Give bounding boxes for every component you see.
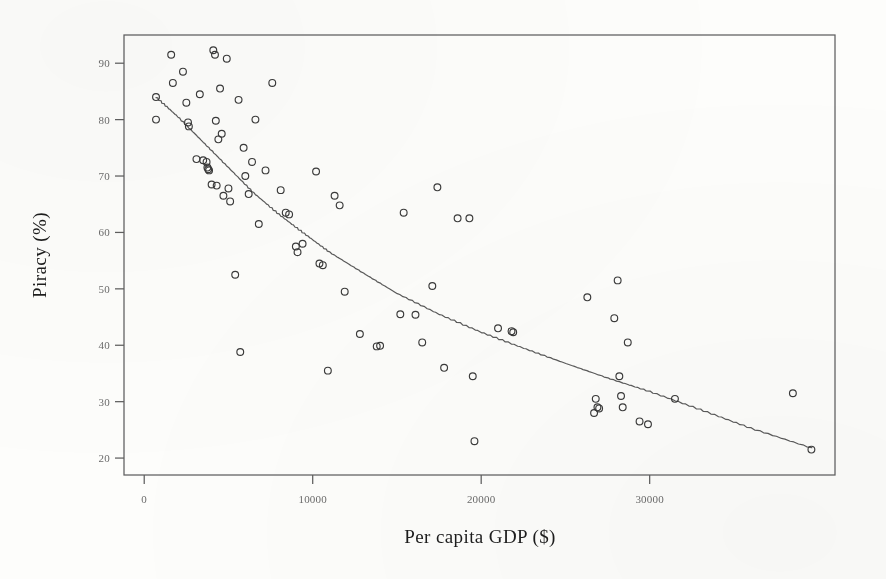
data-point — [227, 198, 234, 205]
data-point — [495, 325, 502, 332]
x-tick-label: 10000 — [298, 493, 327, 505]
data-point — [454, 215, 461, 222]
data-point — [592, 395, 599, 402]
y-tick-label: 70 — [99, 170, 111, 182]
data-point — [193, 156, 200, 163]
data-point — [619, 404, 626, 411]
data-point — [313, 168, 320, 175]
data-point — [616, 373, 623, 380]
data-point — [400, 209, 407, 216]
chart-figure: 2030405060708090 0100002000030000 Per ca… — [0, 0, 886, 579]
x-tick-label: 30000 — [635, 493, 664, 505]
data-point — [336, 202, 343, 209]
data-points — [153, 47, 815, 453]
data-point — [220, 192, 227, 199]
data-point — [169, 80, 176, 87]
data-point — [636, 418, 643, 425]
data-point — [218, 130, 225, 137]
data-point — [324, 367, 331, 374]
data-point — [232, 271, 239, 278]
plot-frame — [124, 35, 835, 475]
data-point — [299, 240, 306, 247]
data-point — [245, 191, 252, 198]
data-point — [240, 144, 247, 151]
data-point — [397, 311, 404, 318]
data-point — [153, 116, 160, 123]
y-tick-label: 60 — [99, 226, 111, 238]
y-tick-label: 20 — [99, 452, 111, 464]
y-tick-label: 80 — [99, 114, 111, 126]
y-tick-label: 40 — [99, 339, 111, 351]
data-point — [210, 47, 217, 54]
data-point — [235, 96, 242, 103]
data-point — [217, 85, 224, 92]
data-point — [419, 339, 426, 346]
data-point — [645, 421, 652, 428]
data-point — [262, 167, 269, 174]
data-point — [356, 331, 363, 338]
x-tick-label: 20000 — [467, 493, 496, 505]
data-point — [618, 393, 625, 400]
y-tick-label: 90 — [99, 57, 111, 69]
x-tick-label: 0 — [141, 493, 147, 505]
data-point — [212, 51, 219, 58]
trend-line — [156, 98, 812, 448]
data-point — [277, 187, 284, 194]
data-point — [168, 51, 175, 58]
data-point — [249, 159, 256, 166]
data-point — [614, 277, 621, 284]
data-point — [255, 221, 262, 228]
y-tick-label: 30 — [99, 396, 111, 408]
y-tick-label: 50 — [99, 283, 111, 295]
data-point — [180, 68, 187, 75]
data-point — [242, 173, 249, 180]
data-point — [196, 91, 203, 98]
data-point — [789, 390, 796, 397]
data-point — [471, 438, 478, 445]
data-point — [584, 294, 591, 301]
data-point — [429, 283, 436, 290]
data-point — [441, 364, 448, 371]
x-axis-title: Per capita GDP ($) — [404, 526, 556, 548]
data-point — [611, 315, 618, 322]
data-point — [341, 288, 348, 295]
data-point — [212, 117, 219, 124]
y-axis-title: Piracy (%) — [29, 212, 51, 298]
data-point — [434, 184, 441, 191]
scatter-plot: 2030405060708090 0100002000030000 Per ca… — [0, 0, 886, 579]
data-point — [225, 185, 232, 192]
data-point — [469, 373, 476, 380]
data-point — [466, 215, 473, 222]
trend-line-path — [156, 98, 812, 448]
data-point — [223, 55, 230, 62]
data-point — [624, 339, 631, 346]
data-point — [269, 80, 276, 87]
data-point — [252, 116, 259, 123]
data-point — [331, 192, 338, 199]
data-point — [237, 349, 244, 356]
x-axis-ticks: 0100002000030000 — [141, 475, 664, 505]
data-point — [412, 311, 419, 318]
y-axis-ticks: 2030405060708090 — [99, 57, 124, 464]
data-point — [183, 99, 190, 106]
